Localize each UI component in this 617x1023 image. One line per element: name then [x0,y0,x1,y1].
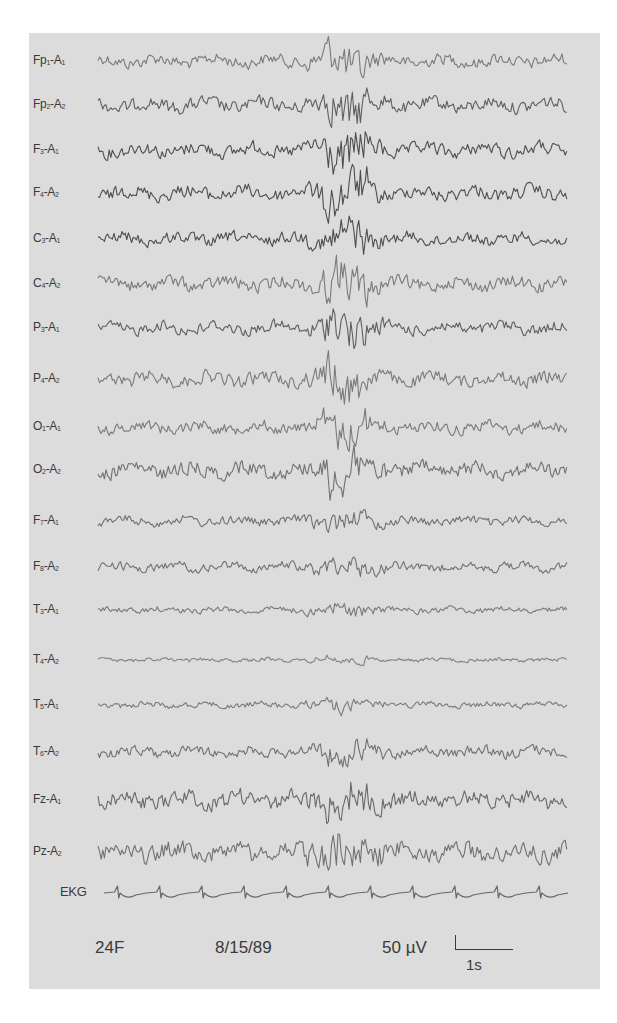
trace-f4-a2 [98,164,567,223]
trace-c3-a1 [98,216,567,255]
channel-label-pz-a2: Pz-A2 [33,844,61,861]
channel-label-t6-a2: T6-A2 [33,744,59,761]
trace-c4-a2 [98,255,567,307]
channel-label-o2-a2: O2-A2 [33,462,61,479]
amplitude-scale-label: 50 µV [382,938,427,958]
channel-label-c3-a1: C3-A1 [33,231,60,248]
trace-t4-a2 [98,655,567,666]
channel-label-c4-a2: C4-A2 [33,276,60,293]
trace-fz-a1 [98,782,567,824]
channel-label-fp1-a1: Fp1-A1 [33,53,65,70]
channel-label-fz-a1: Fz-A1 [33,792,61,809]
patient-label: 24F [95,938,124,958]
calibration-scale-bar [455,935,513,950]
trace-t5-a1 [98,697,567,716]
channel-label-t3-a1: T3-A1 [33,602,59,619]
trace-p3-a1 [98,309,567,349]
trace-f8-a2 [98,557,567,577]
trace-f7-a1 [98,510,567,533]
trace-ekg [104,886,568,898]
channel-label-o1-a1: O1-A1 [33,419,61,436]
channel-label-ekg: EKG [60,885,87,899]
channel-label-p3-a1: P3-A1 [33,320,59,337]
trace-p4-a2 [98,351,567,405]
trace-fp1-a1 [98,36,567,77]
trace-o1-a1 [98,408,567,452]
trace-f3-a1 [98,132,567,175]
channel-label-f7-a1: F7-A1 [33,513,59,530]
trace-pz-a2 [98,834,567,870]
channel-label-f8-a2: F8-A2 [33,559,59,576]
eeg-traces [0,0,617,1023]
trace-t6-a2 [98,739,567,768]
channel-label-p4-a2: P4-A2 [33,371,59,388]
time-scale-label: 1s [466,956,482,973]
trace-o2-a2 [98,445,567,500]
recording-date: 8/15/89 [215,938,272,958]
channel-label-t5-a1: T5-A1 [33,697,59,714]
channel-label-f3-a1: F3-A1 [33,142,59,159]
trace-fp2-a2 [98,88,567,128]
trace-t3-a1 [98,603,567,616]
channel-label-f4-a2: F4-A2 [33,185,59,202]
channel-label-fp2-a2: Fp2-A2 [33,97,65,114]
channel-label-t4-a2: T4-A2 [33,652,59,669]
